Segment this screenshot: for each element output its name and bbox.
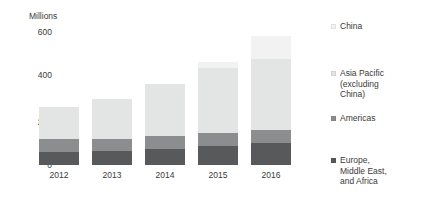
bar-segment: [92, 151, 132, 165]
bar-segment: [198, 146, 238, 166]
bar-segment: [145, 84, 185, 136]
x-tick-2015: 2015: [191, 170, 245, 180]
legend-item-asia-pacific[interactable]: Asia Pacific (excluding China): [331, 68, 384, 100]
bar-segment: [251, 59, 291, 130]
bar-segment: [145, 149, 185, 165]
bar-2014[interactable]: [145, 84, 185, 165]
legend-swatch-asia-pacific: [331, 71, 336, 76]
x-tick-2013: 2013: [85, 170, 139, 180]
bar-segment: [92, 99, 132, 139]
bar-2015[interactable]: [198, 62, 238, 165]
bar-segment: [251, 143, 291, 165]
bar-segment: [198, 133, 238, 146]
plot-area: [0, 0, 330, 198]
bar-segment: [251, 130, 291, 143]
bar-segment: [198, 68, 238, 133]
bar-2013[interactable]: [92, 99, 132, 165]
legend-label-china: China: [340, 21, 362, 32]
bar-segment: [39, 107, 79, 139]
legend-item-china[interactable]: China: [331, 21, 362, 32]
bar-2016[interactable]: [251, 36, 291, 165]
x-tick-2016: 2016: [244, 170, 298, 180]
legend-item-americas[interactable]: Americas: [331, 113, 375, 124]
legend-swatch-americas: [331, 116, 336, 121]
bar-segment: [39, 139, 79, 151]
legend-label-americas: Americas: [340, 113, 375, 124]
legend-swatch-emea: [331, 158, 336, 163]
legend-item-emea[interactable]: Europe, Middle East, and Africa: [331, 155, 387, 187]
legend-swatch-china: [331, 24, 336, 29]
bar-segment: [145, 136, 185, 148]
stacked-bar-chart: Millions 600 400 200 0 2012 2013 2014 20…: [0, 0, 421, 198]
x-tick-2014: 2014: [138, 170, 192, 180]
legend-label-asia-pacific: Asia Pacific (excluding China): [340, 68, 384, 100]
chart-legend: China Asia Pacific (excluding China) Ame…: [331, 0, 421, 198]
bar-segment: [39, 152, 79, 165]
bar-segment: [92, 139, 132, 152]
bar-segment: [251, 36, 291, 59]
bar-2012[interactable]: [39, 107, 79, 165]
x-tick-2012: 2012: [32, 170, 86, 180]
legend-label-emea: Europe, Middle East, and Africa: [340, 155, 387, 187]
